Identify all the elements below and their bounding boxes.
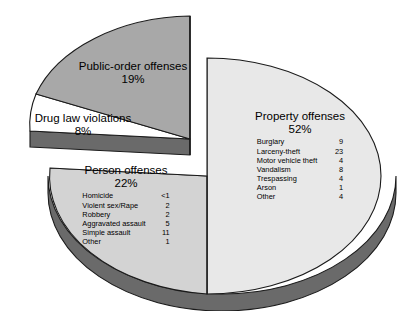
drug-law-percent: 8% — [18, 125, 148, 138]
drug-law-title: Drug law violations — [18, 112, 148, 125]
offense-item-value: 1 — [156, 238, 170, 247]
offense-item-name: Other — [257, 193, 329, 202]
property-title: Property offenses — [238, 110, 362, 123]
slice-label-public-order-offenses: Public-order offenses 19% — [58, 60, 208, 86]
property-items-body: Burglary9Larceny-theft23Motor vehicle th… — [257, 138, 343, 202]
offense-item-name: Other — [82, 238, 155, 247]
offense-item-value: 4 — [329, 193, 343, 202]
person-items-body: Homicide<1Violent sex/Rape2Robbery2Aggra… — [82, 192, 169, 247]
pie-chart-figure: Public-order offenses 19% Drug law viola… — [0, 0, 414, 311]
slice-label-person-offenses: Person offenses 22% Homicide<1Violent se… — [58, 164, 194, 247]
slice-label-drug-law-violations: Drug law violations 8% — [18, 112, 148, 138]
property-percent: 52% — [238, 123, 362, 136]
offense-item-row: Other1 — [82, 238, 169, 247]
person-title: Person offenses — [58, 164, 194, 177]
slice-label-property-offenses: Property offenses 52% Burglary9Larceny-t… — [238, 110, 362, 202]
person-items-table: Homicide<1Violent sex/Rape2Robbery2Aggra… — [82, 192, 169, 247]
property-items-table: Burglary9Larceny-theft23Motor vehicle th… — [257, 138, 343, 202]
person-percent: 22% — [58, 177, 194, 190]
offense-item-row: Other4 — [257, 193, 343, 202]
public-order-title: Public-order offenses — [58, 60, 208, 73]
public-order-percent: 19% — [58, 73, 208, 86]
